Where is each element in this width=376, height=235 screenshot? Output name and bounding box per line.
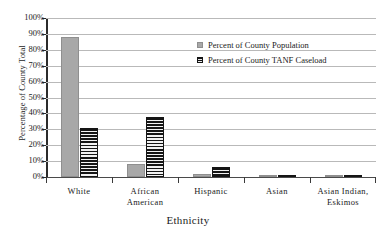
legend-swatch-population-icon xyxy=(197,42,203,48)
clipped-header-text xyxy=(0,0,376,9)
bar-population xyxy=(127,164,145,177)
y-axis-tick-label: 20% xyxy=(4,140,44,149)
x-axis-tick-mark xyxy=(46,177,47,183)
bar-tanf-caseload xyxy=(80,128,98,177)
legend-swatch-tanf-icon xyxy=(197,57,203,63)
chart-legend: Percent of County Population Percent of … xyxy=(197,38,376,68)
x-axis-tick-mark xyxy=(112,177,113,183)
x-axis-tick-mark xyxy=(310,177,311,183)
y-axis-tick-label: 10% xyxy=(4,156,44,165)
x-axis-category-label-line: American xyxy=(106,197,184,208)
bar-population xyxy=(61,37,79,177)
bar-group xyxy=(112,18,178,177)
legend-label-tanf: Percent of County TANF Caseload xyxy=(208,55,327,65)
y-axis-tick-label: 70% xyxy=(4,61,44,70)
bar-group xyxy=(46,18,112,177)
y-axis-tick-label: 80% xyxy=(4,45,44,54)
legend-item-tanf: Percent of County TANF Caseload xyxy=(197,53,376,66)
y-axis-tick-label: 50% xyxy=(4,93,44,102)
bar-chart: Percentage of County Total 0%10%20%30%40… xyxy=(0,0,376,235)
x-axis-tick-mark xyxy=(244,177,245,183)
y-axis-tick-label: 40% xyxy=(4,108,44,117)
bar-tanf-caseload xyxy=(212,167,230,177)
legend-item-population: Percent of County Population xyxy=(197,38,376,51)
y-axis-tick-label: 90% xyxy=(4,29,44,38)
x-axis-title: Ethnicity xyxy=(0,214,376,226)
y-axis-tick-label: 30% xyxy=(4,124,44,133)
x-axis-category-label: Asian Indian,Eskimos xyxy=(304,186,376,208)
bar-tanf-caseload xyxy=(146,117,164,177)
x-axis-category-label-line: Eskimos xyxy=(304,197,376,208)
y-axis-tick-label: 100% xyxy=(4,13,44,22)
x-axis-ticks xyxy=(46,177,376,183)
legend-label-population: Percent of County Population xyxy=(208,40,309,50)
y-axis-tick-label: 0% xyxy=(4,172,44,181)
y-axis-tick-label: 60% xyxy=(4,77,44,86)
x-axis-tick-mark xyxy=(178,177,179,183)
x-axis-category-label-line: Asian Indian, xyxy=(304,186,376,197)
